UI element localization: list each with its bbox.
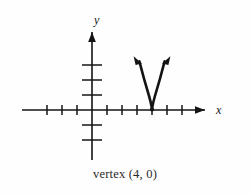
y-axis-arrowhead-icon <box>88 32 96 42</box>
parabola-figure: x y vertex (4, 0) <box>0 0 250 195</box>
x-axis-arrowhead-icon <box>195 106 205 114</box>
vertex-point <box>150 107 154 111</box>
parabola-right-arrowhead-icon <box>162 56 170 65</box>
parabola-left-arrowhead-icon <box>134 56 142 65</box>
x-axis-label: x <box>215 103 222 117</box>
figure-caption: vertex (4, 0) <box>0 167 250 182</box>
coordinate-graph: x y <box>0 0 250 195</box>
parabola-curve <box>139 61 164 108</box>
y-axis-label: y <box>93 13 100 27</box>
